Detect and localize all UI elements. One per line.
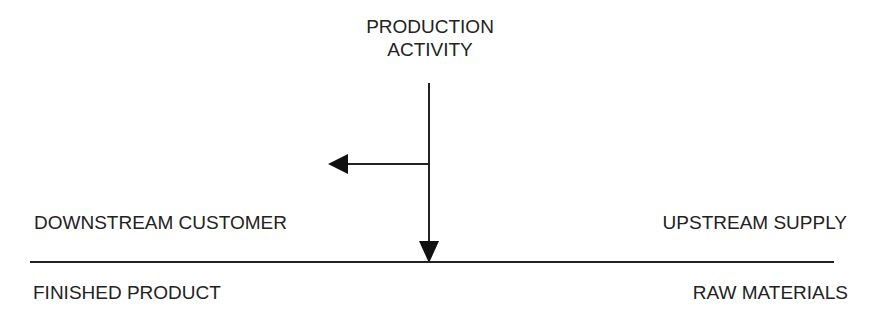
raw-materials-label: RAW MATERIALS xyxy=(693,282,848,304)
upstream-supply-label: UPSTREAM SUPPLY xyxy=(663,212,847,234)
finished-product-label: FINISHED PRODUCT xyxy=(33,282,221,304)
downstream-customer-label: DOWNSTREAM CUSTOMER xyxy=(34,212,287,234)
down-arrow-icon xyxy=(419,241,439,263)
diagram-canvas xyxy=(0,0,881,319)
left-arrow-icon xyxy=(328,154,348,174)
